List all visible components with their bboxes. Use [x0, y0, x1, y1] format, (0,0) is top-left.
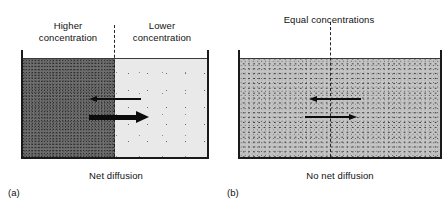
arrow-shaft: [89, 115, 136, 120]
caption-no-net-diffusion: No net diffusion: [238, 170, 442, 181]
dashed-divider-line-a: [114, 25, 115, 157]
leftward-flux-arrow-a: [89, 92, 141, 106]
panel-b: Equal concentrations No net diffusion (b…: [219, 0, 439, 213]
arrow-head-left-icon: [89, 96, 97, 102]
arrow-head-left-icon: [309, 96, 317, 102]
rightward-flux-arrow-a: [89, 110, 149, 124]
rightward-flux-arrow-b: [305, 110, 357, 124]
high-concentration-region: [22, 59, 115, 158]
vessel-wall-right: [207, 50, 209, 159]
arrow-shaft: [96, 98, 141, 99]
panel-a: Higher concentration Lower concentration…: [0, 0, 220, 213]
caption-net-diffusion: Net diffusion: [22, 170, 210, 181]
leftward-flux-arrow-b: [309, 92, 361, 106]
low-concentration-region: [115, 59, 208, 158]
arrow-shaft: [305, 116, 350, 117]
heading-equal-concentrations: Equal concentrations: [255, 14, 403, 26]
liquid-body-a: [22, 58, 208, 158]
arrow-head-right-icon: [136, 111, 149, 123]
vessel-wall-left: [21, 50, 23, 159]
liquid-body-b: [239, 58, 441, 158]
arrow-shaft: [316, 98, 361, 99]
vessel-wall-left: [238, 50, 240, 159]
equal-concentration-region: [239, 59, 441, 158]
vessel-wall-bottom: [238, 157, 442, 159]
vessel-wall-bottom: [21, 157, 209, 159]
heading-lower-concentration: Lower concentration: [116, 20, 208, 44]
dashed-divider-line-b: [330, 22, 331, 157]
panel-label-b: (b): [227, 187, 239, 198]
arrow-head-right-icon: [349, 114, 357, 120]
panel-label-a: (a): [8, 187, 20, 198]
heading-higher-concentration: Higher concentration: [22, 20, 114, 44]
